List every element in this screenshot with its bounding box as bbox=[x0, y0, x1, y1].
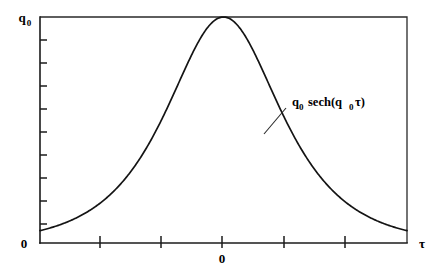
annotation-q-subscript: 0 bbox=[299, 102, 304, 112]
plot-frame-border bbox=[40, 17, 407, 243]
x-axis-ticks bbox=[100, 236, 345, 248]
x-axis-origin-label: 0 bbox=[219, 251, 226, 266]
annotation-sech-open: sech(q bbox=[308, 95, 342, 109]
annotation-sech-close: τ) bbox=[355, 95, 365, 109]
x-axis-symbol-label: τ bbox=[419, 236, 425, 251]
sech-curve bbox=[40, 17, 407, 231]
y-axis-bottom-label: 0 bbox=[21, 236, 28, 251]
y-axis-top-label-base: q bbox=[18, 10, 26, 25]
annotation-q-base: q bbox=[292, 95, 299, 109]
figure-container: q 0 0 0 τ q 0 sech(q 0 τ) bbox=[0, 0, 439, 271]
annotation-leader-line bbox=[264, 108, 286, 134]
curve-annotation: q 0 sech(q 0 τ) bbox=[292, 95, 365, 112]
annotation-sech-subscript: 0 bbox=[349, 102, 354, 112]
y-axis-top-label: q 0 bbox=[18, 10, 31, 28]
sech-plot: q 0 0 0 τ q 0 sech(q 0 τ) bbox=[0, 0, 439, 271]
y-axis-ticks bbox=[40, 40, 47, 224]
y-axis-top-label-subscript: 0 bbox=[27, 18, 32, 28]
